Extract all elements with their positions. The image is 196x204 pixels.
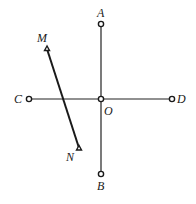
point-m-marker <box>45 46 50 51</box>
geometry-diagram: A B C D O M N <box>0 0 196 204</box>
point-a-marker <box>98 21 103 26</box>
label-o: O <box>104 104 113 118</box>
point-o-marker <box>98 96 103 101</box>
point-n-marker <box>77 146 82 151</box>
label-d: D <box>176 92 186 106</box>
point-b-marker <box>98 171 103 176</box>
label-a: A <box>96 6 105 20</box>
point-c-marker <box>26 96 31 101</box>
label-n: N <box>65 150 75 164</box>
point-d-marker <box>169 96 174 101</box>
label-m: M <box>36 31 48 45</box>
label-b: B <box>97 179 105 193</box>
label-c: C <box>14 92 23 106</box>
